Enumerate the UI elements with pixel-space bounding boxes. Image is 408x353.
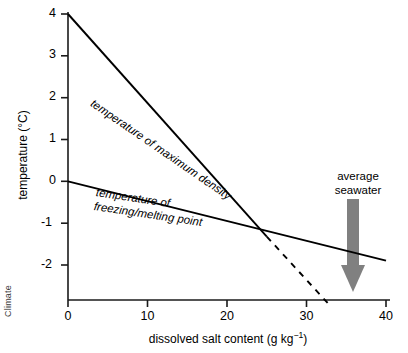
y-tick-label-0: 0: [26, 173, 56, 187]
x-tick-label-20: 20: [212, 309, 242, 323]
y-axis-ticks: [61, 14, 68, 265]
average-seawater-arrow: [341, 199, 365, 292]
annotation-average-seawater-line2: seawater: [312, 184, 404, 198]
annotation-average-seawater-line1: average: [312, 170, 404, 184]
annotation-average-seawater: average seawater: [312, 170, 404, 198]
x-tick-label-0: 0: [53, 309, 83, 323]
y-tick-label-2: 2: [26, 89, 56, 103]
x-tick-label-30: 30: [292, 309, 322, 323]
series-line-maximum-density-extrapolated: [267, 237, 331, 306]
y-tick-label-3: 3: [26, 47, 56, 61]
y-tick-label-minus2: -2: [22, 257, 52, 271]
y-tick-label-4: 4: [26, 6, 56, 20]
x-tick-label-10: 10: [133, 309, 163, 323]
y-tick-label-1: 1: [26, 131, 56, 145]
y-tick-label-minus1: -1: [22, 215, 52, 229]
x-axis-ticks: [68, 300, 386, 307]
x-tick-label-40: 40: [371, 309, 401, 323]
chart-figure: Climate temperature (°C) dissolved salt …: [0, 0, 408, 353]
